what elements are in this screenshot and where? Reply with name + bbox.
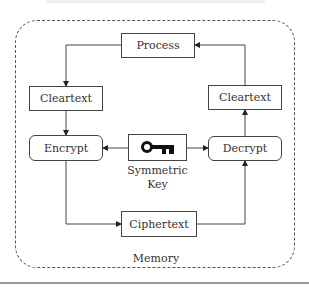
decrypt-node: Decrypt <box>208 136 282 161</box>
symmetric-key-label: Symmetric Key <box>120 164 195 192</box>
cleartext-left-label: Cleartext <box>40 92 92 105</box>
encrypt-label: Encrypt <box>44 142 88 155</box>
memory-label: Memory <box>118 252 194 266</box>
key-icon <box>140 141 176 155</box>
diagram-canvas: Process Cleartext Encrypt Symmetric Key … <box>0 0 309 287</box>
bottom-divider <box>0 282 309 284</box>
ciphertext-node: Ciphertext <box>121 211 197 237</box>
ciphertext-label: Ciphertext <box>129 218 188 231</box>
symmetric-key-label-line1: Symmetric <box>120 164 195 178</box>
cleartext-right-node: Cleartext <box>208 85 282 110</box>
process-label: Process <box>136 39 179 52</box>
cleartext-left-node: Cleartext <box>29 86 103 111</box>
symmetric-key-node <box>128 134 187 161</box>
cleartext-right-label: Cleartext <box>219 91 271 104</box>
encrypt-node: Encrypt <box>29 135 103 161</box>
process-node: Process <box>121 33 195 58</box>
symmetric-key-label-line2: Key <box>120 178 195 192</box>
decrypt-label: Decrypt <box>223 142 267 155</box>
